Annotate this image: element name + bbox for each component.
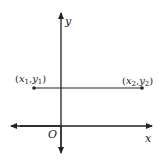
- x-axis-label: x: [145, 132, 152, 145]
- diagram-svg: y x O (x1,y1) (x2,y2): [0, 0, 167, 163]
- point-2: [140, 86, 144, 90]
- coordinate-diagram: y x O (x1,y1) (x2,y2): [0, 0, 167, 163]
- point-1-label: (x1,y1): [15, 73, 46, 86]
- point-1: [32, 86, 36, 90]
- y-axis-label: y: [64, 15, 72, 28]
- origin-label: O: [48, 128, 57, 141]
- point-2-label: (x2,y2): [122, 75, 153, 88]
